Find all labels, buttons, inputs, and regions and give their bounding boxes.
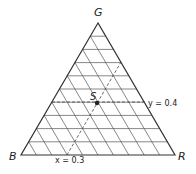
point-s-label: S [90, 91, 97, 102]
grid-lines [29, 36, 168, 155]
vertex-g-label: G [94, 6, 103, 19]
grid-line [75, 63, 129, 155]
grid-line [44, 115, 67, 155]
vertex-b-label: B [9, 150, 17, 163]
x-line-label: x = 0.3 [55, 156, 84, 165]
ternary-diagram: G B R S y = 0.4 x = 0.3 [0, 0, 196, 174]
y-line-label: y = 0.4 [148, 99, 177, 108]
vertex-r-label: R [178, 150, 186, 163]
grid-line [90, 36, 159, 155]
grid-line [29, 142, 37, 155]
